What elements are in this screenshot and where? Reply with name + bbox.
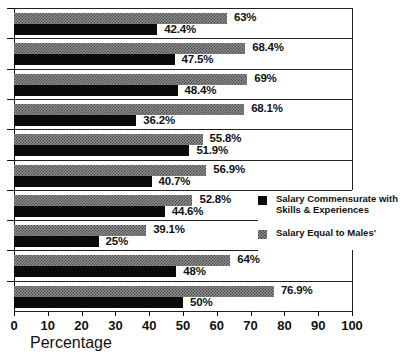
bar-value-label-equal: 68.1% bbox=[251, 102, 283, 114]
x-axis-tick-label: 20 bbox=[74, 318, 88, 333]
x-axis-tick bbox=[115, 311, 116, 316]
bar-value-label-commensurate: 42.4% bbox=[164, 23, 196, 35]
y-axis-tick bbox=[7, 8, 14, 9]
y-axis-tick bbox=[7, 220, 14, 221]
bar-value-label-equal: 64% bbox=[237, 253, 259, 265]
legend-swatch-black-icon bbox=[258, 196, 267, 205]
x-axis-tick-label: 40 bbox=[142, 318, 156, 333]
bar-salary-commensurate bbox=[14, 206, 165, 217]
bar-value-label-commensurate: 44.6% bbox=[172, 205, 204, 217]
chart-category-row: 63%42.4% bbox=[14, 8, 352, 38]
bar-salary-commensurate bbox=[14, 145, 189, 156]
chart-category-row: 64%48% bbox=[14, 250, 352, 280]
bar-value-label-commensurate: 50% bbox=[190, 296, 212, 308]
x-axis-tick-label: 10 bbox=[41, 318, 55, 333]
x-axis-tick bbox=[183, 311, 184, 316]
y-axis-tick bbox=[7, 190, 14, 191]
chart-category-row: 55.8%51.9% bbox=[14, 129, 352, 159]
bar-value-label-equal: 63% bbox=[234, 11, 256, 23]
chart-category-row: 68.1%36.2% bbox=[14, 99, 352, 129]
bar-value-label-equal: 69% bbox=[254, 72, 276, 84]
x-axis-tick-label: 50 bbox=[176, 318, 190, 333]
bar-salary-commensurate bbox=[14, 236, 99, 247]
y-axis-tick bbox=[7, 38, 14, 39]
chart-category-row: 56.9%40.7% bbox=[14, 160, 352, 190]
x-axis-tick-label: 60 bbox=[210, 318, 224, 333]
x-axis-tick bbox=[251, 311, 252, 316]
plot-top-border bbox=[14, 8, 352, 9]
bar-value-label-commensurate: 36.2% bbox=[143, 114, 175, 126]
bar-salary-equal-to-males bbox=[14, 195, 192, 206]
plot-right-border bbox=[352, 250, 353, 311]
legend-label-commensurate-line1: Salary Commensurate with bbox=[276, 193, 403, 204]
x-axis-tick-label: 70 bbox=[243, 318, 257, 333]
bar-salary-commensurate bbox=[14, 297, 183, 308]
x-axis-tick bbox=[149, 311, 150, 316]
bar-value-label-equal: 55.8% bbox=[210, 132, 242, 144]
y-axis-tick bbox=[7, 281, 14, 282]
legend-label-equal-line1: Salary Equal to Males' bbox=[276, 227, 403, 238]
bar-value-label-commensurate: 40.7% bbox=[159, 175, 191, 187]
x-axis-tick-label: 90 bbox=[311, 318, 325, 333]
y-axis-tick bbox=[7, 69, 14, 70]
x-axis-tick-label: 80 bbox=[277, 318, 291, 333]
x-axis-tick-label: 30 bbox=[108, 318, 122, 333]
bar-value-label-commensurate: 47.5% bbox=[182, 53, 214, 65]
bar-value-label-commensurate: 51.9% bbox=[196, 144, 228, 156]
legend-swatch-grey-icon bbox=[258, 230, 267, 239]
bar-value-label-equal: 76.9% bbox=[281, 284, 313, 296]
bar-value-label-equal: 56.9% bbox=[213, 163, 245, 175]
chart-category-row: 68.4%47.5% bbox=[14, 38, 352, 68]
bar-value-label-commensurate: 25% bbox=[106, 235, 128, 247]
chart-category-row: 69%48.4% bbox=[14, 69, 352, 99]
x-axis-tick bbox=[284, 311, 285, 316]
x-axis-tick bbox=[48, 311, 49, 316]
x-axis-tick-label: 0 bbox=[10, 318, 17, 333]
bar-value-label-equal: 52.8% bbox=[199, 193, 231, 205]
x-axis-tick bbox=[217, 311, 218, 316]
bar-salary-commensurate bbox=[14, 266, 176, 277]
x-axis-tick bbox=[318, 311, 319, 316]
bar-salary-commensurate bbox=[14, 115, 136, 126]
legend-label-equal: Salary Equal to Males' bbox=[276, 227, 403, 238]
bar-salary-commensurate bbox=[14, 24, 157, 35]
bar-salary-commensurate bbox=[14, 176, 152, 187]
chart-category-row: 76.9%50% bbox=[14, 281, 352, 311]
bar-value-label-commensurate: 48.4% bbox=[185, 84, 217, 96]
y-axis-tick bbox=[7, 129, 14, 130]
bar-value-label-equal: 68.4% bbox=[252, 41, 284, 53]
legend-label-commensurate-line2: Skills & Experiences bbox=[276, 204, 403, 215]
y-axis-tick bbox=[7, 160, 14, 161]
x-axis-tick-label: 100 bbox=[341, 318, 363, 333]
x-axis-tick bbox=[14, 311, 15, 316]
x-axis-title: Percentage bbox=[30, 334, 112, 352]
y-axis-tick bbox=[7, 250, 14, 251]
bar-salary-equal-to-males bbox=[14, 134, 203, 145]
bar-salary-equal-to-males bbox=[14, 286, 274, 297]
y-axis-tick bbox=[7, 99, 14, 100]
bar-value-label-commensurate: 48% bbox=[183, 265, 205, 277]
x-axis-tick bbox=[352, 311, 353, 316]
bar-salary-equal-to-males bbox=[14, 104, 244, 115]
legend-label-commensurate: Salary Commensurate with Skills & Experi… bbox=[276, 193, 403, 215]
horizontal-bar-chart: 63%42.4%68.4%47.5%69%48.4%68.1%36.2%55.8… bbox=[0, 0, 403, 357]
bar-value-label-equal: 39.1% bbox=[153, 223, 185, 235]
x-axis-tick bbox=[82, 311, 83, 316]
bar-salary-commensurate bbox=[14, 85, 178, 96]
bar-salary-commensurate bbox=[14, 54, 175, 65]
plot-right-border bbox=[352, 8, 353, 190]
